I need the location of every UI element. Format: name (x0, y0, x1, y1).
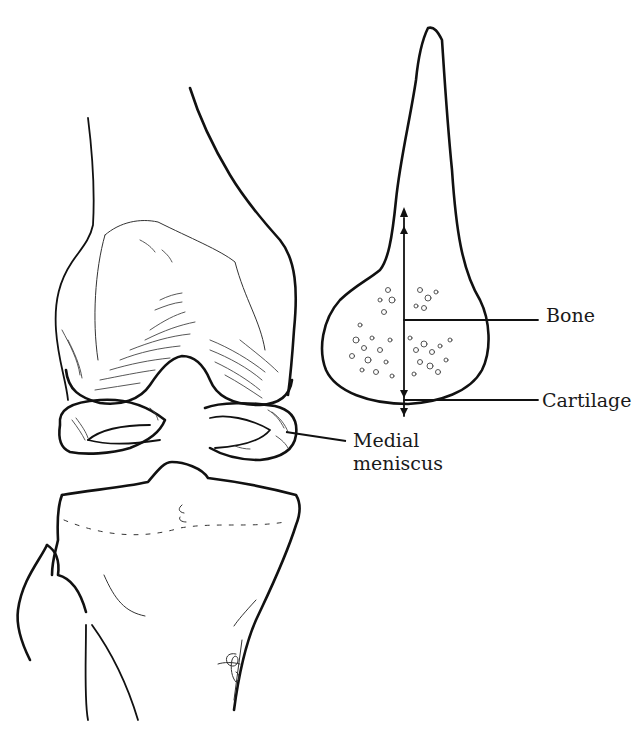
medial-meniscus (205, 403, 296, 460)
cartilage-label: Cartilage (542, 389, 631, 411)
bone-label: Bone (546, 304, 595, 326)
lateral-meniscus (59, 400, 165, 454)
artist-signature (218, 640, 242, 700)
medial-meniscus-label-line2: meniscus (353, 452, 443, 474)
bone-section-inset (322, 28, 538, 416)
knee-diagram (0, 0, 642, 737)
medial-meniscus-label-line1: Medial (353, 429, 419, 451)
tibia (18, 462, 300, 720)
femur (56, 88, 296, 405)
